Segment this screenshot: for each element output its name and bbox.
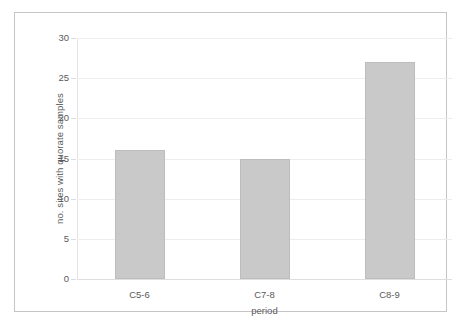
bar-C8-9 (365, 62, 415, 279)
y-tick-label: 30 (43, 33, 69, 43)
y-tick-label: 25 (43, 73, 69, 83)
figure-frame: no. sites with quorate samples period 30… (14, 12, 447, 312)
y-tick-label: 10 (43, 194, 69, 204)
y-tick-mark (71, 118, 76, 119)
y-tick-mark (71, 159, 76, 160)
gridline (77, 38, 452, 39)
y-tick-label: 15 (43, 154, 69, 164)
bar-chart-figure: no. sites with quorate samples period 30… (0, 0, 464, 326)
y-tick-mark (71, 239, 76, 240)
y-tick-mark (71, 279, 76, 280)
y-tick-label: 20 (43, 113, 69, 123)
y-tick-label: 5 (43, 234, 69, 244)
bar-C7-8 (240, 159, 290, 280)
x-tick-label: C8-9 (335, 289, 445, 300)
x-tick-label: C5-6 (85, 289, 195, 300)
gridline (77, 279, 452, 280)
y-tick-mark (71, 199, 76, 200)
y-tick-label: 0 (43, 274, 69, 284)
y-tick-mark (71, 78, 76, 79)
y-tick-mark (71, 38, 76, 39)
bar-C5-6 (115, 150, 165, 279)
x-tick-label: C7-8 (210, 289, 320, 300)
x-axis-title: period (77, 305, 452, 316)
